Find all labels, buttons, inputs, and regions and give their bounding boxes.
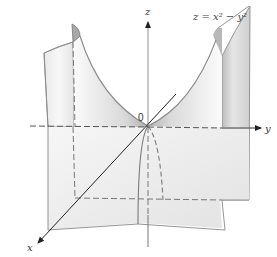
z-axis-label: z [144,6,151,17]
y-axis-label: y [264,123,271,134]
equation-label: z = x² − y² [192,11,247,22]
x-axis-label: x [27,242,33,253]
origin-label: 0 [138,112,144,123]
hyperbolic-paraboloid-diagram: z y x 0 z = x² − y² [0,0,277,257]
